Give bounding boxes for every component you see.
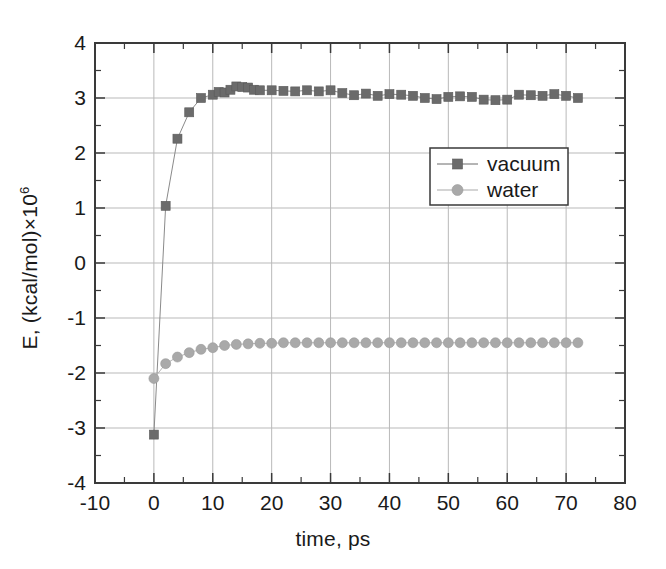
- data-point-vacuum: [255, 86, 264, 95]
- data-point-water: [326, 338, 336, 348]
- y-axis-title-exponent: 6: [17, 187, 32, 194]
- data-point-vacuum: [526, 91, 535, 100]
- data-point-vacuum: [444, 92, 453, 101]
- x-tick-label: 60: [496, 491, 519, 515]
- y-tick-label: 0: [74, 251, 86, 275]
- data-point-water: [314, 338, 324, 348]
- x-tick-label: 50: [437, 491, 460, 515]
- x-tick-label: 10: [201, 491, 224, 515]
- data-point-water: [420, 338, 430, 348]
- data-point-water: [184, 348, 194, 358]
- data-point-water: [432, 338, 442, 348]
- data-point-vacuum: [420, 94, 429, 103]
- legend-label-water: water: [486, 178, 538, 201]
- data-point-vacuum: [361, 89, 370, 98]
- y-tick-label: 4: [74, 31, 86, 55]
- data-point-water: [196, 344, 206, 354]
- series-vacuum: [149, 82, 582, 439]
- data-point-vacuum: [326, 86, 335, 95]
- y-tick-label: 3: [74, 86, 86, 110]
- data-point-water: [538, 338, 548, 348]
- y-axis-title-base: E, (kcal/mol)×10: [18, 194, 41, 350]
- data-point-water: [467, 338, 477, 348]
- x-tick-label: 70: [554, 491, 577, 515]
- data-point-water: [396, 338, 406, 348]
- data-point-vacuum: [350, 91, 359, 100]
- y-tick-label: -2: [67, 361, 86, 385]
- data-point-water: [361, 338, 371, 348]
- x-tick-label: 0: [148, 491, 160, 515]
- data-point-water: [549, 338, 559, 348]
- x-axis-title: time, ps: [0, 527, 666, 551]
- x-tick-label: 30: [319, 491, 342, 515]
- data-point-water: [302, 338, 312, 348]
- data-point-vacuum: [397, 90, 406, 99]
- data-point-vacuum: [338, 89, 347, 98]
- data-series-layer: [149, 82, 583, 439]
- data-point-vacuum: [314, 87, 323, 96]
- data-point-vacuum: [161, 201, 170, 210]
- data-point-vacuum: [409, 91, 418, 100]
- series-water: [149, 338, 583, 384]
- data-point-water: [208, 343, 218, 353]
- data-point-water: [172, 352, 182, 362]
- data-point-vacuum: [515, 90, 524, 99]
- y-tick-label: -1: [67, 306, 86, 330]
- chart-figure: vacuumwater -1001020304050607080-4-3-2-1…: [0, 0, 666, 569]
- data-point-vacuum: [291, 87, 300, 96]
- data-point-vacuum: [573, 94, 582, 103]
- data-point-water: [455, 338, 465, 348]
- data-point-vacuum: [491, 96, 500, 105]
- data-point-vacuum: [432, 95, 441, 104]
- y-tick-label: -4: [67, 471, 86, 495]
- data-point-water: [255, 338, 265, 348]
- data-point-vacuum: [467, 92, 476, 101]
- data-point-vacuum: [173, 134, 182, 143]
- data-point-vacuum: [385, 90, 394, 99]
- data-point-vacuum: [503, 95, 512, 104]
- legend: vacuumwater: [430, 148, 568, 205]
- grid-lines: [95, 43, 625, 483]
- plot-canvas: vacuumwater: [0, 0, 666, 569]
- data-point-water: [561, 338, 571, 348]
- data-point-water: [243, 339, 253, 349]
- data-point-vacuum: [149, 430, 158, 439]
- y-tick-label: 1: [74, 196, 86, 220]
- data-point-water: [479, 338, 489, 348]
- data-point-vacuum: [303, 86, 312, 95]
- data-point-vacuum: [456, 92, 465, 101]
- data-point-water: [443, 338, 453, 348]
- legend-marker-water: [452, 185, 463, 196]
- data-point-water: [384, 338, 394, 348]
- data-point-water: [161, 359, 171, 369]
- data-point-vacuum: [562, 91, 571, 100]
- data-point-vacuum: [279, 86, 288, 95]
- data-point-vacuum: [197, 94, 206, 103]
- data-point-water: [290, 338, 300, 348]
- data-point-water: [267, 338, 277, 348]
- data-point-water: [149, 374, 159, 384]
- data-point-water: [514, 338, 524, 348]
- x-tick-label: 80: [613, 491, 636, 515]
- data-point-vacuum: [373, 91, 382, 100]
- data-point-water: [408, 338, 418, 348]
- data-point-vacuum: [185, 108, 194, 117]
- data-point-water: [502, 338, 512, 348]
- y-tick-label: -3: [67, 416, 86, 440]
- legend-label-vacuum: vacuum: [487, 152, 561, 175]
- data-point-water: [349, 338, 359, 348]
- data-point-vacuum: [479, 95, 488, 104]
- y-axis-title-wrapper: E, (kcal/mol)×106: [0, 0, 56, 569]
- series-line-vacuum: [154, 86, 578, 434]
- x-tick-label: 20: [260, 491, 283, 515]
- data-point-water: [526, 338, 536, 348]
- y-axis-title: E, (kcal/mol)×106: [18, 98, 42, 438]
- data-point-vacuum: [538, 91, 547, 100]
- legend-marker-vacuum: [453, 159, 463, 169]
- x-tick-label: 40: [378, 491, 401, 515]
- data-point-vacuum: [550, 90, 559, 99]
- data-point-water: [231, 339, 241, 349]
- y-tick-label: 2: [74, 141, 86, 165]
- data-point-water: [490, 338, 500, 348]
- data-point-water: [337, 338, 347, 348]
